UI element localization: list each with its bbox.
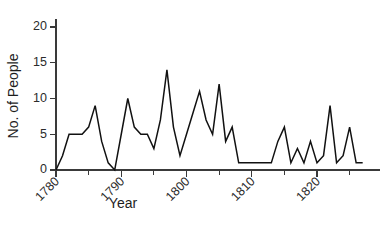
x-tick-label-1780: 1780 bbox=[33, 174, 63, 204]
line-chart: 05101520 17801790180018101820 Year No. o… bbox=[0, 0, 386, 233]
data-line-0 bbox=[56, 70, 363, 170]
x-tick-label-1800: 1800 bbox=[163, 174, 193, 204]
x-axis-tick-labels: 17801790180018101820 bbox=[33, 174, 324, 204]
y-tick-label-10: 10 bbox=[33, 91, 47, 105]
y-tick-label-0: 0 bbox=[40, 162, 47, 176]
data-series-group bbox=[56, 70, 363, 170]
x-axis-ticks bbox=[56, 170, 350, 177]
y-axis-tick-labels: 05101520 bbox=[33, 19, 47, 176]
x-axis-title: Year bbox=[109, 195, 138, 211]
y-tick-label-20: 20 bbox=[33, 19, 47, 33]
y-axis-ticks bbox=[50, 27, 56, 170]
y-tick-label-5: 5 bbox=[40, 127, 47, 141]
y-axis-title: No. of People bbox=[5, 53, 21, 138]
chart-container: 05101520 17801790180018101820 Year No. o… bbox=[0, 0, 386, 233]
x-tick-label-1820: 1820 bbox=[294, 174, 324, 204]
y-tick-label-15: 15 bbox=[33, 55, 47, 69]
x-tick-label-1810: 1810 bbox=[228, 174, 258, 204]
